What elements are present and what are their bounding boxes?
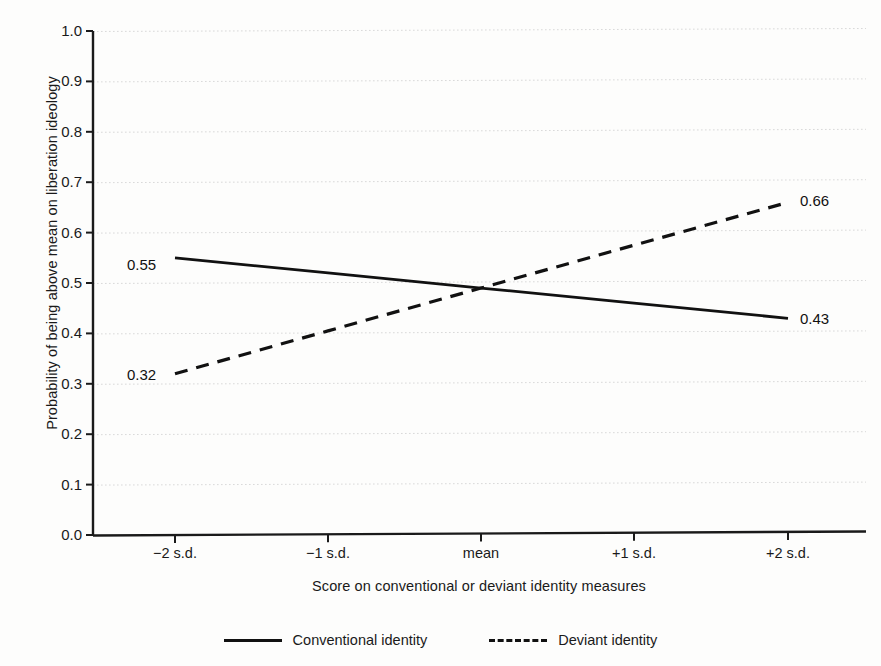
series-line-deviant-identity [175,202,788,373]
x-tick-label: +1 s.d. [574,545,694,561]
y-tick-label: 0.3 [36,376,82,391]
y-tick-label: 0.2 [36,426,82,441]
legend-label-deviant-identity: Deviant identity [558,632,657,648]
y-tick-label: 0.9 [36,73,82,88]
value-label-deviant-start: 0.32 [127,366,156,383]
gridline [93,129,866,132]
y-tick-label: 0.1 [36,477,82,492]
legend-label-conventional-identity: Conventional identity [293,632,428,648]
gridline [93,432,866,435]
y-tick-label: 1.0 [36,23,82,38]
gridlines [93,29,866,486]
gridline [93,331,866,334]
gridline [93,281,866,284]
x-tick-label: −1 s.d. [268,545,388,561]
value-label-conventional-end: 0.43 [800,310,829,327]
gridline [93,482,866,485]
x-axis-line [93,532,866,536]
value-label-conventional-start: 0.55 [127,256,156,273]
y-tick-label: 0.8 [36,124,82,139]
legend-item-deviant-identity: Deviant identity [489,632,657,648]
chart-legend: Conventional identity Deviant identity [0,626,881,654]
x-tick-label: −2 s.d. [115,545,235,561]
gridline [93,381,866,384]
y-tick-label: 0.5 [36,275,82,290]
plot-canvas [0,0,881,666]
gridline [93,79,866,82]
y-tick-label: 0.4 [36,325,82,340]
x-tick-label: mean [421,545,541,561]
x-axis-label: Score on conventional or deviant identit… [93,578,865,594]
chart-figure: Probability of being above mean on liber… [0,0,881,666]
y-tick-label: 0.7 [36,174,82,189]
legend-swatch-dashed-line-icon [489,639,547,642]
gridline [93,230,866,233]
legend-swatch-solid-line-icon [224,639,282,642]
legend-item-conventional-identity: Conventional identity [224,632,428,648]
gridline [93,180,866,183]
value-label-deviant-end: 0.66 [800,192,829,209]
x-tick-label: +2 s.d. [728,545,848,561]
data-series-group [175,202,788,373]
y-tick-label: 0.0 [36,527,82,542]
y-tick-label: 0.6 [36,225,82,240]
gridline [93,29,866,32]
axis-lines [93,31,866,536]
y-tick-labels: 1.00.90.80.70.60.50.40.30.20.10.0 [30,0,82,666]
